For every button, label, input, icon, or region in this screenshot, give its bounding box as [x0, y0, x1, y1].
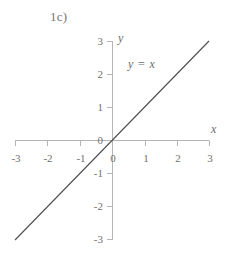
equation-annotation: y = x	[128, 57, 155, 72]
x-tick-label-1: 1	[138, 152, 154, 164]
figure-panel: 1c) -3 -2 -1 0 1 2 3 3	[0, 0, 229, 262]
x-tick-label--1: -1	[73, 152, 89, 164]
y-tick-label--3: -3	[86, 233, 103, 245]
x-tick-label-0: 0	[105, 152, 121, 164]
x-tick-label--2: -2	[40, 152, 56, 164]
y-tick-label-2: 2	[89, 68, 103, 80]
x-tick-label-3: 3	[202, 152, 218, 164]
y-tick-label--1: -1	[86, 167, 103, 179]
plot-area	[0, 0, 229, 262]
y-axis-label: y	[118, 31, 123, 46]
y-tick-label-0: 0	[89, 134, 103, 146]
y-tick-label--2: -2	[86, 200, 103, 212]
y-tick-label-3: 3	[89, 35, 103, 47]
x-tick-label--3: -3	[8, 152, 24, 164]
y-tick-label-1: 1	[89, 101, 103, 113]
x-axis-label: x	[211, 122, 216, 137]
x-tick-label-2: 2	[170, 152, 186, 164]
